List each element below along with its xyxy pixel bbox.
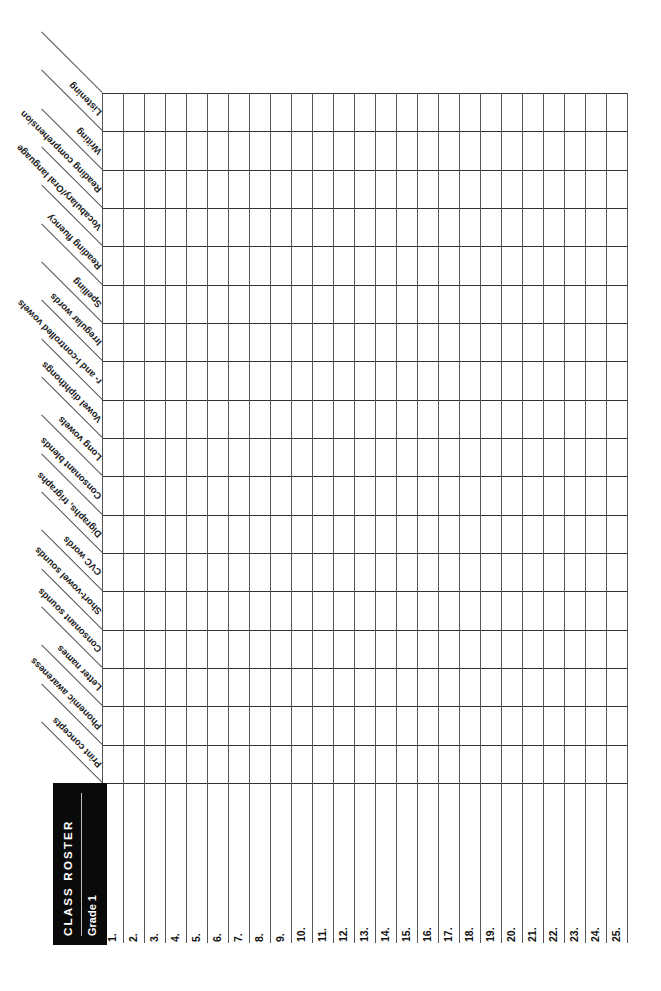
grid-column-line [606, 93, 607, 943]
grid-row-line [102, 476, 627, 477]
student-row-number: 19. [484, 927, 496, 942]
grid-column-line [438, 93, 439, 943]
student-row-number: 15. [400, 927, 412, 942]
class-roster-page: ListeningWritingReading comprehensionVoc… [0, 0, 661, 991]
grid-column-line [396, 93, 397, 943]
student-row-number: 13. [358, 927, 370, 942]
grid-row-line [102, 668, 627, 669]
roster-header: CLASS ROSTER Grade 1 [53, 783, 107, 945]
grid-row-line [102, 783, 627, 784]
grid-column-line [501, 93, 502, 943]
grid-column-line [522, 93, 523, 943]
grid-row-line [102, 591, 627, 592]
grid-column-line [207, 93, 208, 943]
grid-row-line [102, 208, 627, 209]
student-row-number: 14. [379, 927, 391, 942]
student-row-number: 12. [337, 927, 349, 942]
student-row-number: 18. [463, 927, 475, 942]
grid-column-line [417, 93, 418, 943]
grid-row-line [102, 131, 627, 132]
grid-row-line [102, 285, 627, 286]
grid-column-line [249, 93, 250, 943]
grid-column-line [291, 93, 292, 943]
grid-column-line [312, 93, 313, 943]
grid-row-line [102, 400, 627, 401]
grid-column-line [228, 93, 229, 943]
student-row-number: 4. [169, 933, 181, 942]
grid-row-line [102, 93, 627, 94]
grid-column-line [375, 93, 376, 943]
student-row-number: 6. [211, 933, 223, 942]
grid-row-line [102, 438, 627, 439]
grid-column-line [186, 93, 187, 943]
grid-column-line [459, 93, 460, 943]
student-row-number: 21. [526, 927, 538, 942]
grid-column-line [333, 93, 334, 943]
grid-column-line [627, 93, 628, 943]
student-row-number: 10. [295, 927, 307, 942]
grid-row-line [102, 745, 627, 746]
grid-column-line [123, 93, 124, 943]
grade-label: Grade 1 [86, 895, 98, 936]
student-row-number: 23. [568, 927, 580, 942]
grid-column-line [543, 93, 544, 943]
student-row-number: 25. [610, 927, 622, 942]
skill-label: Phonemic awareness [28, 656, 104, 732]
grid-column-line [564, 93, 565, 943]
student-row-number: 17. [442, 927, 454, 942]
student-row-number: 5. [190, 933, 202, 942]
grid-row-line [102, 246, 627, 247]
grid-column-line [270, 93, 271, 943]
student-row-number: 11. [316, 928, 328, 942]
grid-column-line [480, 93, 481, 943]
grid-column-line [165, 93, 166, 943]
student-row-number: 1. [106, 933, 118, 942]
grid-column-line [354, 93, 355, 943]
grid-row-line [102, 706, 627, 707]
student-row-number: 16. [421, 927, 433, 942]
grid-row-line [102, 553, 627, 554]
roster-header-content: CLASS ROSTER Grade 1 [53, 783, 107, 945]
grid-column-line [144, 93, 145, 943]
student-row-number: 7. [232, 933, 244, 942]
skill-label: Writing [73, 126, 104, 157]
grid-row-line [102, 323, 627, 324]
grid-row-line [102, 361, 627, 362]
student-row-number: 24. [589, 927, 601, 942]
roster-title: CLASS ROSTER [62, 820, 74, 937]
student-row-number: 22. [547, 927, 559, 942]
grid-row-line [102, 630, 627, 631]
student-row-number: 8. [253, 933, 265, 942]
grid-row-line [102, 515, 627, 516]
header-divider [81, 793, 82, 936]
grid-column-line [585, 93, 586, 943]
student-row-number: 3. [148, 933, 160, 942]
student-row-number: 9. [274, 933, 286, 942]
student-row-number: 2. [127, 933, 139, 942]
grid-row-line [102, 170, 627, 171]
student-row-number: 20. [505, 927, 517, 942]
